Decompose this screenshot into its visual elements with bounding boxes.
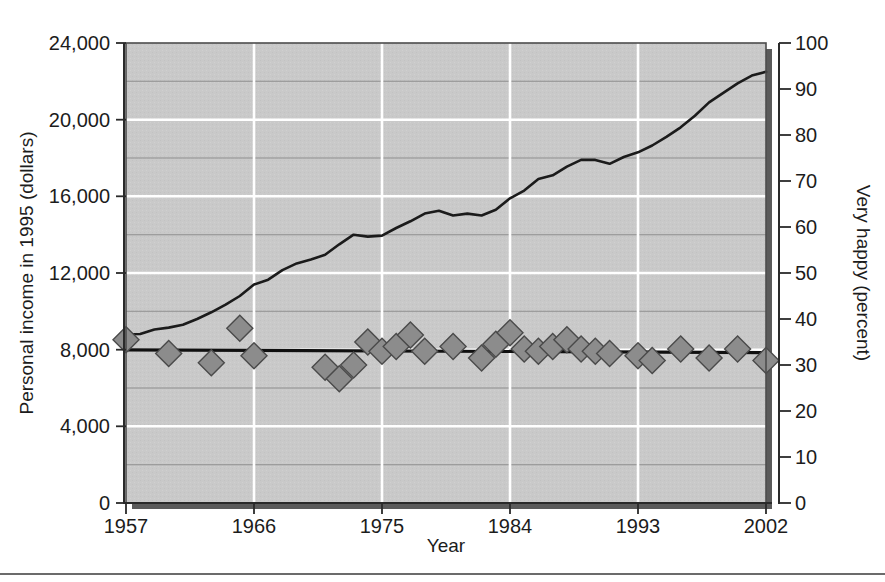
x-axis-tick-label: 1993 bbox=[616, 515, 661, 537]
x-axis-tick-label: 1966 bbox=[232, 515, 277, 537]
y2-axis-tick-label: 80 bbox=[795, 124, 817, 146]
y2-axis-title: Very happy (percent) bbox=[853, 185, 874, 361]
y2-axis-tick-label: 50 bbox=[795, 262, 817, 284]
y-axis-tick-label: 16,000 bbox=[49, 185, 110, 207]
y2-axis-tick-label: 20 bbox=[795, 400, 817, 422]
y-axis-tick-label: 4,000 bbox=[60, 415, 110, 437]
y-axis-tick-label: 24,000 bbox=[49, 32, 110, 54]
y-axis-tick-label: 12,000 bbox=[49, 262, 110, 284]
x-axis-tick-label: 1975 bbox=[360, 515, 405, 537]
y2-axis-tick-label: 100 bbox=[795, 32, 828, 54]
y2-axis-tick-label: 30 bbox=[795, 354, 817, 376]
y2-axis-tick-label: 40 bbox=[795, 308, 817, 330]
chart-figure: 04,0008,00012,00016,00020,00024,000 0102… bbox=[0, 0, 885, 582]
x-axis-tick-label: 1984 bbox=[488, 515, 533, 537]
x-axis-tick-label: 2002 bbox=[744, 515, 789, 537]
y-axis-tick-label: 20,000 bbox=[49, 109, 110, 131]
y2-axis-tick-label: 10 bbox=[795, 446, 817, 468]
y2-axis-tick-label: 90 bbox=[795, 78, 817, 100]
x-axis-title: Year bbox=[427, 535, 466, 556]
x-axis-tick-label: 1957 bbox=[104, 515, 149, 537]
income-happiness-dual-axis-chart: 04,0008,00012,00016,00020,00024,000 0102… bbox=[0, 0, 885, 582]
y-axis-tick-label: 8,000 bbox=[60, 339, 110, 361]
y2-axis-tick-label: 60 bbox=[795, 216, 817, 238]
y2-axis-tick-label: 0 bbox=[795, 492, 806, 514]
y2-axis-tick-label: 70 bbox=[795, 170, 817, 192]
y-axis-tick-label: 0 bbox=[99, 492, 110, 514]
y-axis-title: Personal income in 1995 (dollars) bbox=[16, 131, 37, 414]
